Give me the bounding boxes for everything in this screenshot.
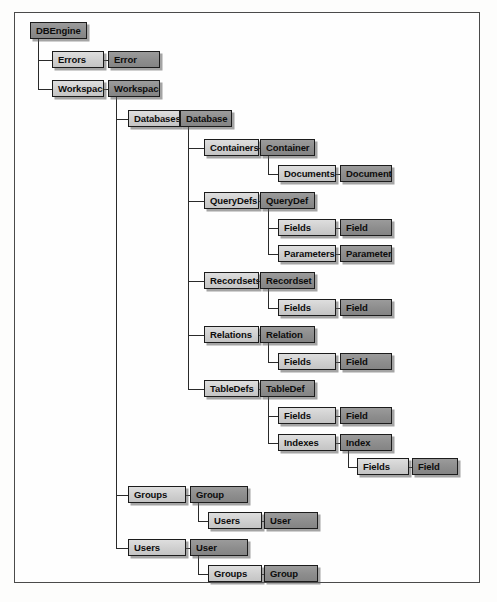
node-documents: Documents [278,165,336,182]
node-error: Error [108,51,160,68]
node-label: Fields [363,462,390,472]
node-label: Relations [210,330,252,340]
node-label: Recordset [266,276,312,286]
node-label: Relation [266,330,303,340]
node-label: Fields [284,223,311,233]
connector-line [38,39,39,89]
connector-line [268,174,278,175]
connector-line [188,201,204,202]
node-databases: Databases [128,110,180,127]
node-relation: Relation [260,326,315,343]
node-database: Database [180,110,232,127]
node-querydef: QueryDef [260,192,315,209]
connector-line [348,451,349,467]
connector-line [188,335,204,336]
node-label: User [270,516,291,526]
node-label: Field [346,223,368,233]
node-users: Users [128,539,186,556]
connector-line [198,574,208,575]
node-label: Container [266,143,309,153]
node-document: Document [340,165,392,182]
node-label: Group [196,490,224,500]
node-label: Databases [134,114,180,124]
connector-line [268,362,278,363]
connector-line [268,443,278,444]
node-label: Indexes [284,438,319,448]
node-label: Database [186,114,227,124]
node-usr_group: Group [264,565,318,582]
node-user: User [190,539,248,556]
node-usr_groups: Groups [208,565,262,582]
node-rel_field: Field [340,353,392,370]
node-grp_user: User [264,512,318,529]
node-groups: Groups [128,486,186,503]
connector-line [38,60,52,61]
node-dbengine: DBEngine [30,22,87,39]
node-td_field: Field [340,407,392,424]
connector-line [268,343,269,362]
node-label: Containers [210,143,259,153]
node-td_fields: Fields [278,407,336,424]
connector-line [268,397,269,443]
node-rs_field: Field [340,299,392,316]
node-recordsets: Recordsets [204,272,259,289]
node-label: Group [270,569,298,579]
node-rs_fields: Fields [278,299,336,316]
connector-line [198,503,199,521]
node-ix_fields: Fields [357,458,409,475]
node-label: Users [214,516,240,526]
connector-line [268,254,278,255]
node-parameters: Parameters [278,245,336,262]
diagram-canvas: DBEngineErrorsErrorWorkspacesWorkspaceDa… [0,0,497,602]
node-label: Groups [134,490,167,500]
node-label: Errors [58,55,86,65]
connector-line [268,416,278,417]
node-label: TableDef [266,384,305,394]
node-label: Parameters [284,249,335,259]
node-label: Document [346,169,392,179]
connector-line [188,148,204,149]
node-label: Groups [214,569,247,579]
connector-line [116,119,128,120]
node-recordset: Recordset [260,272,315,289]
node-label: TableDefs [210,384,254,394]
node-label: QueryDefs [210,196,257,206]
node-label: Field [346,303,368,313]
node-label: Field [346,411,368,421]
connector-line [348,467,357,468]
connector-line [268,156,269,174]
node-tabledef: TableDef [260,380,315,397]
node-workspace: Workspace [108,80,160,97]
node-label: Documents [284,169,335,179]
connector-line [268,308,278,309]
connector-line [116,97,117,548]
node-ix_field: Field [412,458,458,475]
node-label: QueryDef [266,196,308,206]
connector-line [188,281,204,282]
node-qd_field: Field [340,219,392,236]
node-tabledefs: TableDefs [204,380,259,397]
node-label: Recordsets [210,276,259,286]
node-qd_fields: Fields [278,219,336,236]
connector-line [268,228,278,229]
node-label: Fields [284,357,311,367]
node-workspaces: Workspaces [52,80,104,97]
connector-line [268,209,269,254]
node-label: Workspace [114,84,160,94]
node-label: User [196,543,217,553]
connector-line [268,289,269,308]
node-parameter: Parameter [340,245,392,262]
node-rel_fields: Fields [278,353,336,370]
node-label: DBEngine [36,26,81,36]
node-label: Fields [284,411,311,421]
connector-line [198,521,208,522]
node-label: Index [346,438,370,448]
connector-line [188,127,189,389]
connector-line [198,556,199,574]
node-label: Error [114,55,137,65]
node-label: Parameter [346,249,392,259]
node-containers: Containers [204,139,259,156]
node-indexes: Indexes [278,434,336,451]
node-label: Workspaces [58,84,104,94]
node-label: Fields [284,303,311,313]
